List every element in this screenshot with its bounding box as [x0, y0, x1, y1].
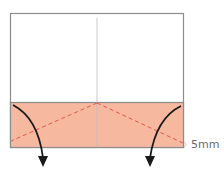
measurement-tick-icon	[184, 142, 186, 147]
measurement-label: 5mm	[191, 139, 219, 151]
